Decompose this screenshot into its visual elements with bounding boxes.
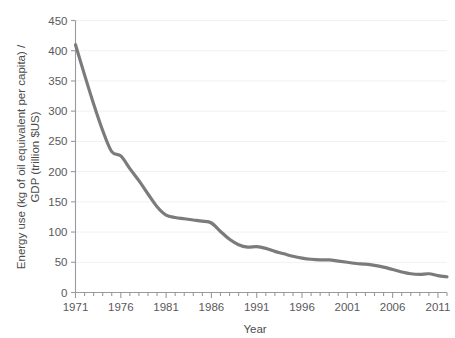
chart-container: 050100150200250300350400450 197119761981… bbox=[0, 0, 455, 338]
y-tick-label: 250 bbox=[48, 135, 67, 147]
data-series-line bbox=[76, 45, 448, 277]
x-tick-label: 1996 bbox=[289, 301, 315, 313]
x-tick-label: 1971 bbox=[63, 301, 89, 313]
y-axis-title: Energy use (kg of oil equivalent per cap… bbox=[15, 44, 41, 269]
series-path bbox=[76, 45, 448, 277]
grid-lines bbox=[76, 21, 448, 263]
x-tick-label: 2011 bbox=[426, 301, 451, 313]
x-tick-label: 2006 bbox=[380, 301, 406, 313]
x-tick-label: 1981 bbox=[153, 301, 179, 313]
y-tick-label: 300 bbox=[48, 105, 67, 117]
x-tick-label: 1991 bbox=[244, 301, 270, 313]
x-tick-label: 2001 bbox=[335, 301, 361, 313]
y-tick-label: 100 bbox=[48, 226, 67, 238]
y-axis bbox=[71, 21, 76, 293]
energy-use-per-gdp-line-chart: 050100150200250300350400450 197119761981… bbox=[0, 0, 455, 338]
y-tick-label: 350 bbox=[48, 75, 67, 87]
x-axis bbox=[76, 293, 448, 299]
y-tick-label: 150 bbox=[48, 196, 67, 208]
x-axis-title: Year bbox=[243, 323, 266, 335]
y-axis-title-line-1: Energy use (kg of oil equivalent per cap… bbox=[15, 44, 27, 269]
y-tick-label: 400 bbox=[48, 45, 67, 57]
y-tick-label: 50 bbox=[55, 256, 68, 268]
y-axis-title-line-2: GDP (trillion $US) bbox=[29, 111, 41, 202]
y-tick-label: 0 bbox=[61, 287, 67, 299]
y-tick-label: 200 bbox=[48, 166, 67, 178]
x-tick-label: 1986 bbox=[199, 301, 225, 313]
y-tick-labels: 050100150200250300350400450 bbox=[48, 15, 67, 299]
x-axis-title-text: Year bbox=[243, 323, 266, 335]
y-tick-label: 450 bbox=[48, 15, 67, 27]
x-tick-labels: 197119761981198619911996200120062011 bbox=[63, 301, 451, 313]
x-tick-label: 1976 bbox=[108, 301, 134, 313]
